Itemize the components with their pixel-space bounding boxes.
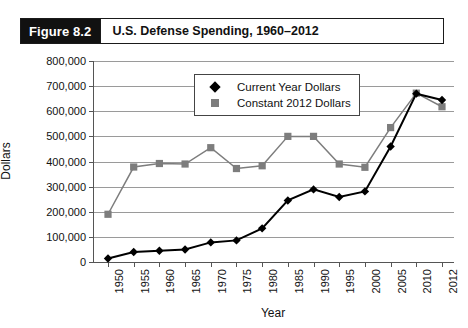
y-tick-label: 100,000 — [46, 231, 86, 243]
x-tick — [442, 262, 443, 267]
x-tick — [159, 262, 160, 267]
x-tick-label: 2012 — [447, 269, 459, 293]
x-tick-label: 2005 — [396, 269, 408, 293]
figure-number-badge: Figure 8.2 — [21, 19, 100, 43]
x-tick-label: 1990 — [319, 269, 331, 293]
y-tick-label: 300,000 — [46, 181, 86, 193]
legend-label-constant-2012-dollars: Constant 2012 Dollars — [237, 97, 351, 109]
data-point — [104, 211, 111, 218]
data-point — [386, 142, 394, 150]
y-tick-label: 500,000 — [46, 130, 86, 142]
y-tick-label: 700,000 — [46, 80, 86, 92]
data-point — [361, 164, 368, 171]
data-point — [361, 187, 369, 195]
data-point — [335, 193, 343, 201]
y-tick — [89, 262, 94, 263]
data-point — [438, 103, 445, 110]
legend-marker-square-icon — [200, 96, 232, 110]
x-tick-label: 1960 — [164, 269, 176, 293]
data-point — [336, 160, 343, 167]
data-point — [387, 124, 394, 131]
x-tick — [185, 262, 186, 267]
x-tick-label: 2010 — [421, 269, 433, 293]
x-tick-label: 2000 — [370, 269, 382, 293]
series-line-current-year-dollars — [108, 94, 442, 259]
data-point — [156, 160, 163, 167]
data-point — [259, 162, 266, 169]
x-axis-title: Year — [93, 306, 453, 320]
data-point — [155, 246, 163, 254]
diamond-icon — [209, 81, 220, 92]
figure-caption: U.S. Defense Spending, 1960–2012 — [100, 19, 443, 43]
y-tick-label: 800,000 — [46, 55, 86, 67]
y-tick-label: 600,000 — [46, 105, 86, 117]
data-point — [233, 165, 240, 172]
y-tick-label: 0 — [80, 256, 86, 268]
x-tick-label: 1955 — [139, 269, 151, 293]
data-point — [284, 133, 291, 140]
y-tick-label: 400,000 — [46, 156, 86, 168]
data-point — [207, 238, 215, 246]
x-tick — [339, 262, 340, 267]
data-point — [232, 236, 240, 244]
x-tick — [416, 262, 417, 267]
x-tick-label: 1965 — [190, 269, 202, 293]
y-axis-title: Dollars — [0, 142, 13, 179]
chart-legend: Current Year Dollars Constant 2012 Dolla… — [194, 74, 360, 116]
chart-area: Dollars Year 0100,000200,000300,000400,0… — [0, 50, 468, 328]
data-point — [181, 160, 188, 167]
legend-item-constant-2012-dollars: Constant 2012 Dollars — [200, 95, 351, 111]
x-tick — [365, 262, 366, 267]
x-tick-label: 1995 — [344, 269, 356, 293]
x-tick — [391, 262, 392, 267]
data-point — [104, 254, 112, 262]
data-point — [438, 96, 446, 104]
x-tick-label: 1950 — [113, 269, 125, 293]
x-tick-label: 1980 — [267, 269, 279, 293]
x-tick-label: 1985 — [293, 269, 305, 293]
square-icon — [211, 99, 219, 107]
data-point — [130, 163, 137, 170]
x-tick — [262, 262, 263, 267]
data-point — [310, 133, 317, 140]
legend-item-current-year-dollars: Current Year Dollars — [200, 79, 351, 95]
legend-marker-diamond-icon — [200, 80, 232, 94]
data-point — [181, 245, 189, 253]
data-point — [309, 185, 317, 193]
figure-header: Figure 8.2 U.S. Defense Spending, 1960–2… — [20, 18, 444, 44]
x-tick — [211, 262, 212, 267]
x-tick — [314, 262, 315, 267]
y-tick-label: 200,000 — [46, 206, 86, 218]
x-tick-label: 1970 — [216, 269, 228, 293]
data-point — [207, 144, 214, 151]
x-tick — [134, 262, 135, 267]
data-point — [129, 248, 137, 256]
x-tick — [236, 262, 237, 267]
x-tick — [108, 262, 109, 267]
plot-area: 0100,000200,000300,000400,000500,000600,… — [93, 61, 454, 263]
legend-label-current-year-dollars: Current Year Dollars — [237, 81, 341, 93]
x-tick-label: 1975 — [241, 269, 253, 293]
x-tick — [288, 262, 289, 267]
